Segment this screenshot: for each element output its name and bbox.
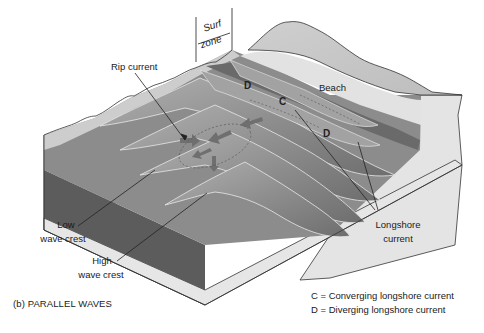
figure-caption: (b) PARALLEL WAVES: [13, 298, 112, 309]
legend-diverging: D = Diverging longshore current: [311, 304, 445, 316]
low-label: Low: [52, 219, 80, 230]
longshore-current-label: current: [366, 233, 430, 244]
low-wave-crest-label: wave crest: [38, 233, 88, 244]
d-marker-right: D: [323, 128, 330, 139]
rip-current-label: Rip current: [111, 61, 157, 72]
legend-converging: C = Converging longshore current: [311, 290, 454, 302]
d-marker-left: D: [244, 80, 251, 91]
diagram-canvas: Surf zone Rip current Beach D C D Low wa…: [0, 0, 484, 333]
high-wave-crest-label: wave crest: [74, 269, 128, 280]
wave-block-diagram: [0, 0, 484, 333]
longshore-label: Longshore: [366, 219, 430, 230]
c-marker: C: [279, 96, 286, 107]
beach-label: Beach: [319, 82, 346, 93]
high-label: High: [87, 255, 117, 266]
